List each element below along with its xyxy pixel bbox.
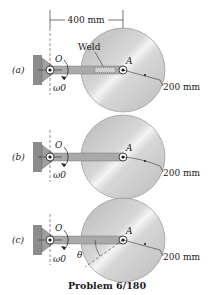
weld [95, 68, 115, 73]
pivot-label: O [55, 54, 63, 64]
pivot-label: O [55, 140, 63, 150]
figure-caption: Problem 6/180 [68, 280, 146, 291]
radius-label: 200 mm [163, 168, 201, 178]
radius-label: 200 mm [163, 252, 201, 262]
center-label: A [125, 226, 133, 236]
panel-tag: (c) [12, 235, 25, 245]
panel-a: Weld (a) O A ω0 200 mm [12, 28, 201, 112]
dimension-400mm: 400 mm [50, 10, 123, 28]
center-label: A [125, 56, 133, 66]
panel-c: (c) O A ω0 θ 200 mm [12, 198, 201, 282]
center-label: A [125, 143, 133, 153]
pivot-label: O [55, 223, 63, 233]
diagram-canvas: 400 mm Weld (a) O A ω0 200 mm [0, 0, 214, 295]
theta-label: θ [77, 250, 83, 260]
omega-label: ω0 [53, 170, 66, 180]
omega-label: ω0 [53, 254, 66, 264]
weld-label: Weld [78, 42, 101, 52]
omega-label: ω0 [53, 83, 66, 93]
panel-tag: (a) [12, 65, 25, 75]
panel-b: (b) O A ω0 200 mm [12, 115, 201, 199]
panel-tag: (b) [12, 152, 25, 162]
radius-label: 200 mm [163, 82, 201, 92]
dimension-label: 400 mm [67, 15, 105, 25]
